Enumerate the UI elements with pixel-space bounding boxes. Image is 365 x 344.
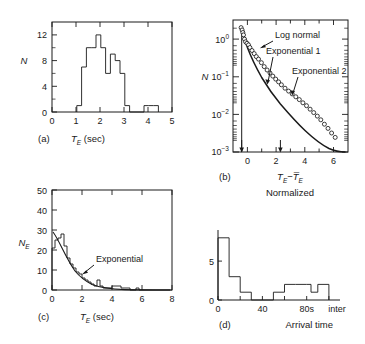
panel-b: 100 10−1 10−2 10−3 N [185,0,365,175]
panel-a-x-axis: 0 1 2 3 4 5 [49,22,174,126]
panel-c-xtick-8: 8 [169,294,174,304]
panel-b-label: (b) [219,171,231,182]
panel-a-xtick-0: 0 [49,116,54,126]
panel-b-annotation-exp1-label: Exponential 1 [266,46,321,56]
panel-c-ytick-20: 20 [37,246,47,256]
panel-d-ytick-0: 0 [209,296,214,306]
panel-c-ytick-10: 10 [37,266,47,276]
panel-a-xtick-3: 3 [121,116,126,126]
panel-c-xtick-2: 2 [79,294,84,304]
panel-c-ytick-40: 40 [37,206,47,216]
panel-d-label: (d) [219,319,231,330]
panel-d-xlabel-inter: inter [328,304,346,314]
panel-b-ytick-0: 100 [215,33,229,45]
panel-c-xtick-6: 6 [139,294,144,304]
panel-d-histogram [218,238,329,300]
panel-a-ytick-0: 0 [42,108,47,118]
panel-b-caption-row: (b) TE−T̅E Normalized [185,168,365,210]
panel-c-caption-row: (c) TE (sec) [0,306,190,334]
panel-c-xlabel: TE (sec) [80,311,114,324]
panel-d-xtick-40: 40 [257,304,267,314]
panel-a-ytick-8: 8 [42,56,47,66]
panel-c-ytick-0: 0 [42,286,47,296]
panel-c-annotation-exponential-label: Exponential [96,254,143,264]
panel-b-xtick-6: 6 [331,156,336,166]
panel-c-ytick-30: 30 [37,226,47,236]
panel-b-sublabel: Normalized [266,187,314,198]
panel-b-xtick-4: 4 [302,156,307,166]
panel-d-caption-row: (d) Arrival time [185,314,365,342]
panel-b-data-points [239,26,337,140]
panel-b-ytick-2: 10−2 [212,108,230,120]
panel-a-ylabel: N [21,55,28,66]
panel-d-xtick-80: 80s [299,304,314,314]
panel-b-plot: 100 10−1 10−2 10−3 N [185,0,365,175]
panel-d: 0 5 0 40 80s inter (d) Arrival time [185,218,365,318]
panel-c-xtick-4: 4 [109,294,114,304]
panel-c-ytick-50: 50 [37,186,47,196]
panel-d-plot: 0 5 0 40 80s inter [185,218,365,318]
panel-a-xtick-1: 1 [73,116,78,126]
panel-d-y-axis: 0 5 [209,257,222,306]
panel-a-ytick-4: 4 [42,82,47,92]
panel-d-x-axis: 0 40 80s inter [215,296,345,314]
panel-a: 0 4 8 12 N 0 1 [0,0,190,160]
panel-b-xlabel: TE−T̅E [277,171,304,184]
figure-container: 0 4 8 12 N 0 1 [0,0,365,344]
panel-c-plot: 0 10 20 30 40 50 NE [0,172,190,312]
panel-c-y-axis: 0 10 20 30 40 50 NE [18,186,57,296]
panel-c-label: (c) [38,311,49,322]
panel-c: 0 10 20 30 40 50 NE [0,172,190,312]
panel-a-label: (a) [38,133,50,144]
panel-d-xlabel: Arrival time [285,319,333,330]
panel-d-xtick-0: 0 [215,304,220,314]
panel-a-ytick-12: 12 [37,30,47,40]
panel-b-annotation-exp2-label: Exponential 2 [292,66,347,76]
panel-b-xtick-0: 0 [245,156,250,166]
panel-a-histogram [77,35,159,112]
panel-b-ylabel: N [202,71,209,82]
panel-d-ytick-5: 5 [209,257,214,267]
panel-b-annotation-exp2: Exponential 2 [290,66,346,96]
panel-c-annotation-exponential: Exponential [82,254,143,275]
panel-b-ytick-1: 10−1 [212,70,230,82]
panel-a-xtick-5: 5 [169,116,174,126]
panel-c-ylabel: NE [18,237,30,250]
panel-b-ytick-3: 10−3 [212,145,230,157]
panel-b-annotation-lognormal-label: Log normal [275,30,320,40]
panel-c-xtick-0: 0 [49,294,54,304]
panel-b-axis-marker-2 [278,140,283,153]
panel-a-xtick-4: 4 [145,116,150,126]
panel-a-xlabel: TE (sec) [71,133,105,146]
panel-b-axis-marker-1 [239,140,244,153]
panel-a-caption-row: (a) TE (sec) [0,128,190,156]
panel-b-xtick-2: 2 [274,156,279,166]
panel-a-xtick-2: 2 [97,116,102,126]
